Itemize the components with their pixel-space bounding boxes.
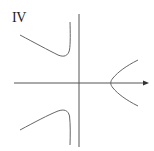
- x-axis-arrow-icon: [143, 81, 149, 86]
- curve-upper-left-branch: [20, 22, 70, 56]
- curve-lower-left-branch: [20, 110, 70, 145]
- graph-canvas: [0, 0, 154, 151]
